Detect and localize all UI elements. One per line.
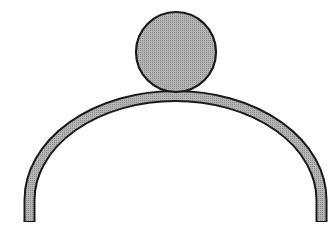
arch-outline	[30, 96, 322, 222]
ball-on-arch-diagram	[0, 0, 336, 231]
diagram-canvas	[0, 0, 336, 231]
ball-circle	[136, 12, 216, 92]
arch-fill	[30, 96, 322, 221]
